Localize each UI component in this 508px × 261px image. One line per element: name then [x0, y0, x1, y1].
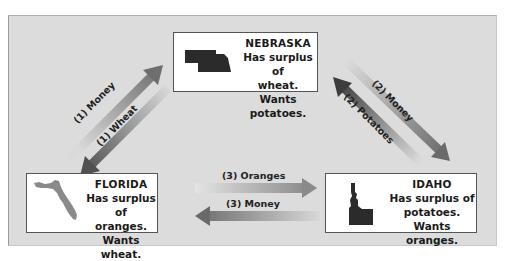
node-line: oranges. [83, 219, 159, 233]
node-line: Has surplus of [238, 50, 318, 78]
node-line: Wants oranges. [388, 219, 476, 247]
node-line: Has surplus of [388, 191, 476, 205]
node-line: Wants potatoes. [238, 92, 318, 120]
nebraska-map-icon [184, 49, 232, 73]
node-line: potatoes. [388, 205, 476, 219]
florida-map-icon [33, 179, 81, 221]
node-idaho: IDAHO Has surplus of potatoes. Wants ora… [325, 173, 477, 233]
node-name: FLORIDA [83, 177, 159, 191]
node-florida: FLORIDA Has surplus of oranges. Wants wh… [26, 173, 158, 233]
node-name: NEBRASKA [238, 36, 318, 50]
label-3-oranges: (3) Oranges [222, 170, 285, 181]
node-line: wheat. [238, 78, 318, 92]
label-3-money: (3) Money [226, 198, 280, 209]
arrow-3-oranges [195, 178, 317, 198]
node-name: IDAHO [388, 177, 476, 191]
node-line: Has surplus of [83, 191, 159, 219]
node-nebraska: NEBRASKA Has surplus of wheat. Wants pot… [173, 32, 318, 92]
node-line: Wants wheat. [83, 233, 159, 261]
idaho-map-icon [348, 182, 374, 226]
arrow-3-money [195, 206, 320, 226]
